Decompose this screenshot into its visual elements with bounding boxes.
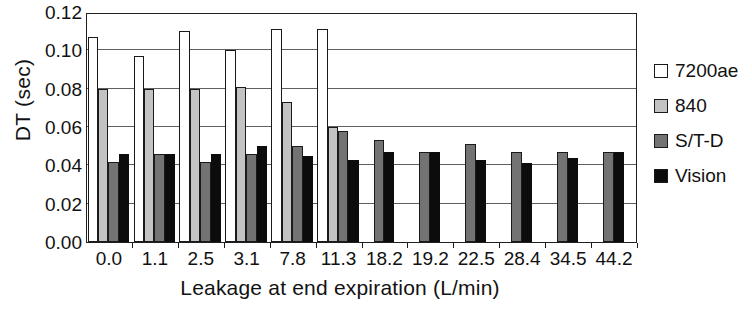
bar	[246, 154, 256, 242]
bar	[200, 162, 210, 243]
legend-item-label: 840	[675, 96, 707, 115]
bar	[522, 163, 532, 242]
bar	[190, 89, 200, 242]
bar	[282, 102, 292, 242]
legend-item-label: Vision	[675, 166, 726, 185]
bar-chart: DT (sec) 0.000.020.040.060.080.100.12 0.…	[0, 0, 752, 313]
bar	[119, 154, 129, 242]
legend-swatch-icon	[654, 64, 668, 78]
bar	[317, 29, 327, 242]
bar	[476, 160, 486, 242]
bar	[348, 160, 358, 242]
bar	[144, 89, 154, 242]
bar	[134, 56, 144, 242]
legend-item-label: S/T-D	[675, 131, 724, 150]
bar	[236, 87, 246, 242]
y-axis-tick-label: 0.08	[24, 80, 82, 99]
y-axis-tick-label: 0.10	[24, 41, 82, 60]
bar	[98, 89, 108, 242]
bar	[271, 29, 281, 242]
bar-group	[87, 14, 133, 242]
bar	[292, 146, 302, 242]
bar	[225, 50, 235, 242]
bar	[338, 131, 348, 242]
bar	[154, 154, 164, 242]
legend-item[interactable]: 7200ae	[654, 55, 752, 86]
legend-swatch-icon	[654, 134, 668, 148]
legend-swatch-icon	[654, 99, 668, 113]
bar-group	[592, 14, 638, 242]
legend-item[interactable]: Vision	[654, 160, 752, 191]
legend-swatch-icon	[654, 169, 668, 183]
y-axis-tick-labels: 0.000.020.040.060.080.100.12	[24, 13, 82, 243]
bar	[557, 152, 567, 242]
x-axis-title: Leakage at end expiration (L/min)	[40, 276, 640, 300]
y-axis-tick-label: 0.00	[24, 233, 82, 252]
bar-group	[546, 14, 592, 242]
bar	[430, 152, 440, 242]
bar	[614, 152, 624, 242]
bar-group	[225, 14, 271, 242]
bar	[108, 162, 118, 243]
x-axis-tick-labels: 0.01.12.53.17.811.318.219.222.528.434.54…	[86, 243, 637, 275]
y-axis-tick-label: 0.04	[24, 156, 82, 175]
bar	[179, 31, 189, 242]
bar	[465, 144, 475, 242]
legend: 7200ae840S/T-DVision	[654, 55, 752, 195]
legend-item[interactable]: S/T-D	[654, 125, 752, 156]
bar	[303, 156, 313, 242]
bar-group	[454, 14, 500, 242]
bar	[384, 152, 394, 242]
bar	[165, 154, 175, 242]
y-axis-tick-label: 0.02	[24, 195, 82, 214]
bar-group	[408, 14, 454, 242]
legend-item-label: 7200ae	[675, 61, 738, 80]
bar	[603, 152, 613, 242]
y-axis-tick-label: 0.12	[24, 3, 82, 22]
bar	[257, 146, 267, 242]
bars-layer	[87, 14, 636, 242]
y-axis-tick-label: 0.06	[24, 118, 82, 137]
bar-group	[363, 14, 409, 242]
bar	[419, 152, 429, 242]
bar	[568, 158, 578, 242]
bar-group	[271, 14, 317, 242]
bar	[211, 154, 221, 242]
bar-group	[179, 14, 225, 242]
x-axis-tick-mark	[637, 243, 638, 248]
bar-group	[133, 14, 179, 242]
bar	[511, 152, 521, 242]
bar	[374, 140, 384, 242]
bar	[328, 127, 338, 242]
plot-area	[86, 13, 637, 243]
bar	[88, 37, 98, 242]
x-axis-tick-label: 44.2	[584, 248, 644, 270]
bar-group	[317, 14, 363, 242]
bar-group	[500, 14, 546, 242]
legend-item[interactable]: 840	[654, 90, 752, 121]
